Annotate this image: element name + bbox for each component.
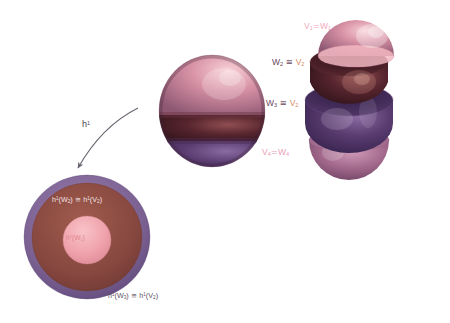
label-disc-bottom: h1(W3) ≅ h1(V2) bbox=[108, 292, 158, 301]
label-map-h1: h1 bbox=[82, 120, 90, 129]
operand-right: W1 bbox=[320, 21, 331, 31]
label-disc-outer: h1(W2) ≅ h1(V2) bbox=[52, 196, 102, 205]
relation-symbol: ≅ bbox=[73, 195, 84, 204]
central-sphere bbox=[155, 50, 273, 173]
operand-left: h1(W2) bbox=[52, 195, 73, 204]
operand-left: h1(W3) bbox=[108, 291, 129, 300]
operand-left: W2 bbox=[272, 57, 283, 67]
label-v4-equals-w4: V4=W4 bbox=[262, 148, 289, 158]
relation-symbol: ≅ bbox=[129, 291, 140, 300]
relation-symbol: ≅ bbox=[277, 98, 290, 108]
label-w2-cong-v2: W2 ≅ V2 bbox=[272, 58, 304, 68]
operand-left: V4 bbox=[262, 147, 271, 157]
map-name: h1 bbox=[82, 119, 90, 129]
operand: h1(W1) bbox=[66, 234, 85, 241]
operand-right: h1(V2) bbox=[83, 195, 102, 204]
label-v1-equals-w1: V1=W1 bbox=[304, 22, 331, 32]
operand-right: W4 bbox=[278, 147, 289, 157]
label-w3-cong-v2: W3 ≅ V2 bbox=[266, 99, 298, 109]
map-arrow bbox=[78, 108, 138, 168]
operand-left: V1 bbox=[304, 21, 313, 31]
image-disc bbox=[24, 175, 150, 299]
operand-right: V2 bbox=[290, 98, 299, 108]
relation-symbol: ≅ bbox=[283, 57, 296, 67]
figure-canvas: V1=W1 W2 ≅ V2 W3 ≅ V2 V4=W4 h1 h1(W2) ≅ … bbox=[0, 0, 450, 323]
operand-left: W3 bbox=[266, 98, 277, 108]
label-disc-inner: h1(W1) bbox=[66, 235, 85, 242]
relation-symbol: = bbox=[313, 21, 320, 31]
operand-right: h1(V2) bbox=[139, 291, 158, 300]
operand-right: V2 bbox=[296, 57, 305, 67]
figure-graphics bbox=[0, 0, 450, 323]
relation-symbol: = bbox=[271, 147, 278, 157]
